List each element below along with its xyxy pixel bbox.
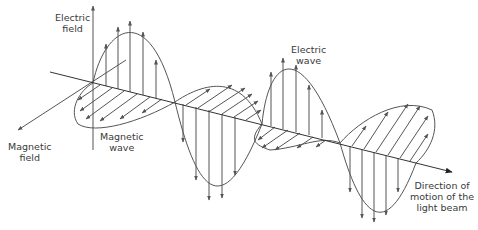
magnetic-field-label: Magnetic field (8, 141, 52, 163)
direction-label: Direction of motion of the light beam (410, 180, 474, 213)
magnetic-vectors-lobe1 (78, 85, 162, 121)
magnetic-wave-label: Magnetic wave (100, 131, 144, 153)
magnetic-field-axis (18, 60, 126, 130)
electric-vectors-lobe4 (350, 146, 398, 222)
electric-vectors-lobe3 (271, 58, 322, 138)
electric-wave-label: Electric wave (291, 44, 326, 66)
em-wave-diagram (0, 0, 478, 230)
electric-field-label: Electric field (55, 12, 90, 34)
electric-vectors-lobe2 (183, 104, 235, 200)
propagation-axis (50, 72, 452, 172)
magnetic-vectors-lobe4 (352, 104, 428, 161)
